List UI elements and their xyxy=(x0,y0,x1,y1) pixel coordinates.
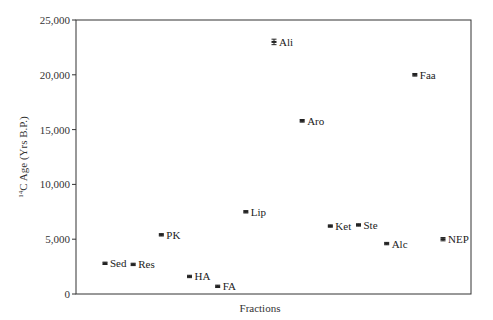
data-point-ha: HA xyxy=(187,270,210,282)
marker xyxy=(384,243,389,245)
data-point-lip: Lip xyxy=(243,206,266,218)
plot-area xyxy=(76,20,471,294)
y-tick-label: 20,000 xyxy=(40,69,71,81)
y-tick-label: 15,000 xyxy=(40,124,71,136)
marker xyxy=(159,234,164,236)
data-point-faa: Faa xyxy=(412,69,436,81)
point-label: NEP xyxy=(448,233,469,245)
point-label: Ket xyxy=(335,220,351,232)
point-label: FA xyxy=(223,280,236,292)
data-point-fa: FA xyxy=(215,280,236,292)
marker xyxy=(328,225,333,227)
point-label: Aro xyxy=(307,115,325,127)
point-label: Lip xyxy=(251,206,267,218)
point-label: Alc xyxy=(392,238,408,250)
data-point-pk: PK xyxy=(159,229,181,241)
point-label: Res xyxy=(138,258,155,270)
y-tick-label: 10,000 xyxy=(40,178,71,190)
point-label: Sed xyxy=(110,257,127,269)
marker xyxy=(441,238,446,240)
data-point-res: Res xyxy=(131,258,155,270)
marker xyxy=(243,211,248,213)
data-point-ste: Ste xyxy=(356,219,378,231)
x-axis-title: Fractions xyxy=(240,302,281,314)
point-label: Ali xyxy=(279,36,293,48)
y-tick-label: 0 xyxy=(65,288,71,300)
data-point-ali: Ali xyxy=(272,36,294,48)
y-axis: 05,00010,00015,00020,00025,000 xyxy=(40,14,76,300)
data-point-ket: Ket xyxy=(328,220,351,232)
marker xyxy=(187,275,192,277)
point-label: PK xyxy=(166,229,180,241)
plot-frame xyxy=(76,20,471,294)
marker xyxy=(103,262,108,264)
marker xyxy=(215,285,220,287)
point-label: HA xyxy=(195,270,211,282)
data-point-alc: Alc xyxy=(384,238,408,250)
y-tick-label: 5,000 xyxy=(45,233,70,245)
marker xyxy=(356,224,361,226)
point-label: Faa xyxy=(420,69,436,81)
marker xyxy=(300,120,305,122)
data-points: SedResPKHAFALipAliAroKetSteAlcFaaNEP xyxy=(103,36,469,292)
point-label: Ste xyxy=(364,219,378,231)
scatter-chart: 05,00010,00015,00020,00025,000 SedResPKH… xyxy=(0,0,493,320)
data-point-aro: Aro xyxy=(300,115,325,127)
marker xyxy=(131,263,136,265)
y-axis-title: 14C Age (Yrs B.P.) xyxy=(17,116,30,198)
data-point-nep: NEP xyxy=(441,233,469,245)
y-tick-label: 25,000 xyxy=(40,14,71,26)
marker xyxy=(412,74,417,76)
marker xyxy=(272,41,277,43)
data-point-sed: Sed xyxy=(103,257,128,269)
